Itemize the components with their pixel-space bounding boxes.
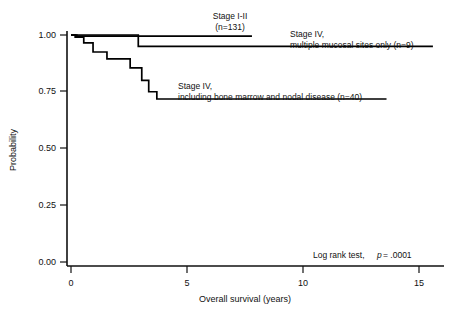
y-tick-label-1.00: 1.00 [38, 30, 56, 40]
log-rank-test-text: Log rank test, [313, 250, 365, 260]
log-rank-annotation: Log rank test, p = .0001 [313, 250, 412, 260]
x-axis-title: Overall survival (years) [199, 294, 291, 304]
x-tick-label-0: 0 [68, 278, 73, 288]
y-tick-label-0.25: 0.25 [38, 200, 56, 210]
series-label-stage-i-ii: Stage I-II (n=131) [213, 11, 248, 32]
series-label-stage-iv-mucosal-line2: multiple mucosal sites only (n=9) [290, 40, 414, 50]
p-value-number: = .0001 [383, 250, 412, 260]
y-axis-title: Probability [8, 128, 18, 171]
survival-chart-figure: 1.00 0.75 0.50 0.25 0.00 0 5 10 15 Overa… [0, 0, 451, 319]
p-value-symbol: p [376, 250, 382, 260]
series-label-stage-iv-mucosal-line1: Stage IV, [290, 29, 324, 39]
x-tick-label-5: 5 [184, 278, 189, 288]
series-label-stage-i-ii-line2: (n=131) [215, 22, 245, 32]
x-tick-label-15: 15 [414, 278, 424, 288]
series-label-stage-iv-bone-marrow-line1: Stage IV, [178, 81, 212, 91]
kaplan-meier-plot: 1.00 0.75 0.50 0.25 0.00 0 5 10 15 Overa… [0, 0, 451, 319]
y-tick-label-0.50: 0.50 [38, 143, 56, 153]
y-tick-label-0.75: 0.75 [38, 86, 56, 96]
series-label-stage-i-ii-line1: Stage I-II [213, 11, 248, 21]
x-tick-label-10: 10 [298, 278, 308, 288]
series-label-stage-iv-bone-marrow-line2: including bone marrow and nodal disease … [178, 92, 362, 102]
y-tick-label-0.00: 0.00 [38, 257, 56, 267]
